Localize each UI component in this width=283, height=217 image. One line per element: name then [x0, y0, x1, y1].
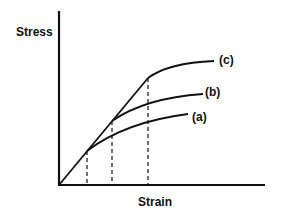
- elastic-line: [59, 78, 148, 185]
- curve-label-a: (a): [192, 111, 207, 123]
- curve-label-b: (b): [205, 86, 220, 98]
- curve-c: [148, 61, 214, 78]
- curve-b: [112, 94, 203, 121]
- stress-strain-diagram: Stress Strain (c) (b) (a): [0, 0, 283, 217]
- x-axis-label: Strain: [138, 196, 172, 208]
- y-axis-label: Stress: [16, 26, 53, 38]
- curve-label-c: (c): [219, 54, 234, 66]
